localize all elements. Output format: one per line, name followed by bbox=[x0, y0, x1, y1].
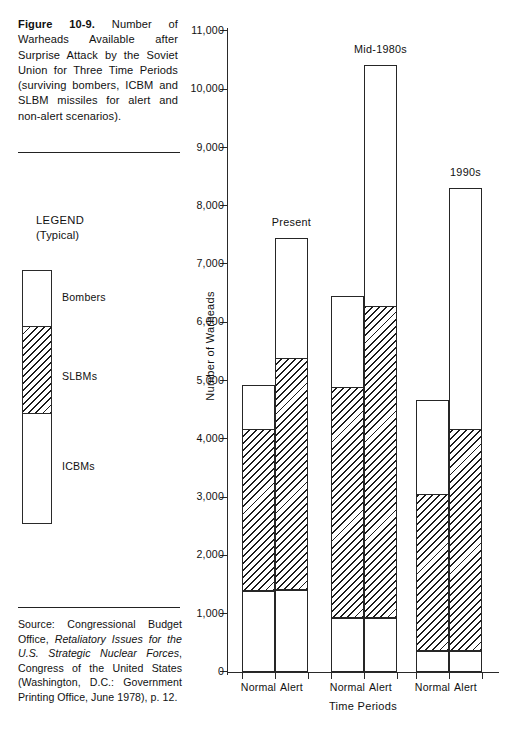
y-tick-label: 10,000 bbox=[174, 82, 224, 94]
x-tick bbox=[308, 672, 309, 679]
y-tick-label: 7,000 bbox=[174, 257, 224, 269]
x-category-label: Alert bbox=[262, 681, 322, 693]
y-tick-label: 0 bbox=[174, 665, 224, 677]
bar-segment-icbm bbox=[449, 651, 482, 673]
chart-bar bbox=[242, 385, 275, 672]
source-note: Source: Congressional Budget Office, Ret… bbox=[18, 617, 182, 705]
group-title: Mid-1980s bbox=[336, 43, 426, 55]
bar-segment-slbm bbox=[416, 494, 449, 651]
y-tick-label: 4,000 bbox=[174, 432, 224, 444]
x-tick bbox=[449, 672, 450, 679]
chart-bar bbox=[416, 400, 449, 672]
chart-bar bbox=[275, 238, 308, 672]
x-tick bbox=[482, 672, 483, 679]
x-tick bbox=[397, 672, 398, 679]
chart-bar bbox=[449, 188, 482, 672]
bar-segment-icbm bbox=[331, 618, 364, 673]
y-tick-label: 6,000 bbox=[174, 315, 224, 327]
legend-swatch-icbms bbox=[23, 414, 51, 523]
y-tick-label: 3,000 bbox=[174, 490, 224, 502]
bar-segment-slbm bbox=[275, 358, 308, 589]
bar-segment-slbm bbox=[331, 387, 364, 617]
x-axis-title: Time Periods bbox=[227, 700, 499, 712]
figure-sidebar: Figure 10-9. Number of Warheads Availabl… bbox=[0, 0, 186, 736]
bar-segment-icbm bbox=[275, 590, 308, 673]
legend-sample-bar bbox=[22, 270, 52, 524]
bar-segment-slbm bbox=[242, 429, 275, 591]
y-axis-line bbox=[227, 28, 228, 675]
y-tick-label: 11,000 bbox=[174, 24, 224, 36]
legend-title-main: LEGEND bbox=[36, 213, 84, 228]
group-title: 1990s bbox=[421, 166, 506, 178]
bar-segment-icbm bbox=[242, 591, 275, 673]
legend-swatch-bombers bbox=[23, 271, 51, 326]
y-tick-label: 8,000 bbox=[174, 199, 224, 211]
bar-segment-icbm bbox=[416, 651, 449, 673]
chart-bar bbox=[331, 296, 364, 672]
figure-caption-text: Number of Warheads Available after Surpr… bbox=[18, 18, 178, 122]
y-axis-title: Number of Warheads bbox=[204, 246, 216, 446]
x-tick bbox=[331, 672, 332, 679]
x-tick bbox=[242, 672, 243, 679]
legend-label-icbms: ICBMs bbox=[62, 460, 95, 472]
y-tick-label: 5,000 bbox=[174, 374, 224, 386]
source-divider bbox=[18, 607, 180, 608]
y-tick-label: 2,000 bbox=[174, 548, 224, 560]
chart-bar bbox=[364, 65, 397, 672]
figure-caption: Figure 10-9. Number of Warheads Availabl… bbox=[18, 17, 178, 124]
x-category-label: Alert bbox=[436, 681, 496, 693]
bar-segment-slbm bbox=[364, 306, 397, 618]
legend-swatch-slbms bbox=[23, 326, 51, 414]
x-tick bbox=[364, 672, 365, 679]
chart-plot-area: 01,0002,0003,0004,0005,0006,0007,0008,00… bbox=[186, 0, 506, 736]
caption-divider bbox=[18, 152, 180, 153]
figure-number: Figure 10-9. bbox=[18, 18, 95, 30]
y-tick-label: 9,000 bbox=[174, 141, 224, 153]
legend-label-slbms: SLBMs bbox=[62, 370, 97, 382]
group-title: Present bbox=[247, 216, 337, 228]
x-tick bbox=[416, 672, 417, 679]
bar-segment-icbm bbox=[364, 618, 397, 673]
legend-title: LEGEND (Typical) bbox=[36, 213, 84, 243]
y-tick-label: 1,000 bbox=[174, 607, 224, 619]
bar-segment-slbm bbox=[449, 429, 482, 650]
legend-title-sub: (Typical) bbox=[36, 228, 84, 243]
x-category-label: Alert bbox=[351, 681, 411, 693]
x-tick bbox=[275, 672, 276, 679]
legend-label-bombers: Bombers bbox=[62, 291, 106, 303]
